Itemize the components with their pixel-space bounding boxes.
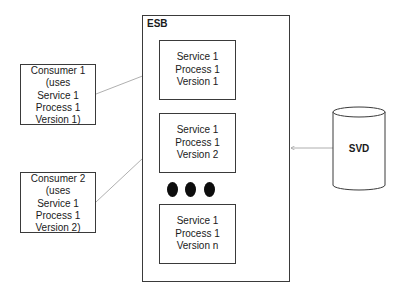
consumer-line: Consumer 1 — [31, 65, 85, 77]
consumer-line: Service 1 — [37, 198, 79, 210]
ellipsis-dot-icon — [167, 182, 178, 197]
process-line: Process 1 — [175, 137, 219, 150]
version-line: Version 1 — [177, 76, 219, 89]
version-line: Version n — [177, 240, 219, 253]
ellipsis-dot-icon — [204, 182, 215, 197]
process-line: Process 1 — [175, 228, 219, 241]
consumer-line: Process 1 — [36, 210, 80, 222]
service-version-2-box: Service 1 Process 1 Version 2 — [159, 113, 236, 173]
consumer-1-box: Consumer 1 (uses Service 1 Process 1 Ver… — [20, 64, 96, 125]
consumer-line: (uses — [46, 185, 70, 197]
process-line: Process 1 — [175, 64, 219, 77]
consumer-line: Version 2) — [35, 222, 80, 234]
service-version-1-box: Service 1 Process 1 Version 1 — [159, 40, 236, 100]
service-line: Service 1 — [177, 51, 219, 64]
esb-label: ESB — [147, 18, 168, 29]
service-version-n-box: Service 1 Process 1 Version n — [159, 204, 236, 264]
ellipsis-dot-icon — [185, 182, 196, 197]
consumer-line: Process 1 — [36, 102, 80, 114]
consumer-line: Version 1) — [35, 114, 80, 126]
service-line: Service 1 — [177, 124, 219, 137]
version-line: Version 2 — [177, 149, 219, 162]
consumer-2-box: Consumer 2 (uses Service 1 Process 1 Ver… — [20, 172, 96, 233]
svd-label: SVD — [333, 143, 385, 154]
consumer-line: Service 1 — [37, 90, 79, 102]
service-line: Service 1 — [177, 215, 219, 228]
consumer-line: Consumer 2 — [31, 173, 85, 185]
consumer-line: (uses — [46, 77, 70, 89]
